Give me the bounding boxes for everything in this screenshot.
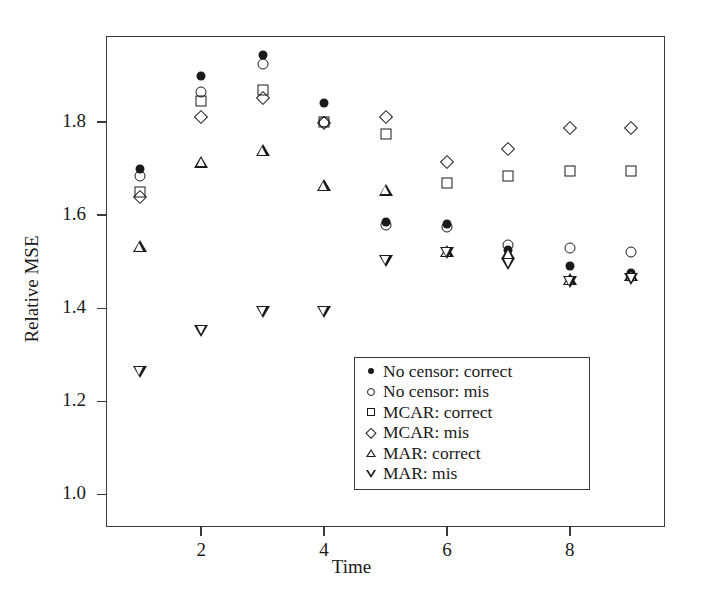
legend-item-label: MCAR: mis (383, 422, 469, 443)
data-point (194, 325, 208, 337)
legend-item: MAR: correct (361, 443, 583, 464)
data-point (626, 165, 637, 176)
y-axis-tick-label: 1.8 (26, 110, 86, 132)
legend-diamond-icon (361, 423, 381, 443)
data-point (626, 247, 637, 258)
data-point (379, 184, 393, 196)
legend-item: No censor: mis (361, 382, 583, 403)
y-axis-tick (97, 214, 106, 216)
data-point (257, 58, 268, 69)
x-axis-tick (569, 527, 571, 536)
x-axis-tick (200, 527, 202, 536)
y-axis-tick (97, 401, 106, 403)
data-point (134, 170, 145, 181)
data-point (565, 262, 574, 271)
open-circle-marker-icon (367, 388, 375, 396)
data-point (441, 177, 452, 188)
data-point (564, 165, 575, 176)
legend-filled-circle-icon (361, 361, 381, 381)
legend-item-label: MAR: correct (383, 443, 481, 464)
scatter-plot-figure: 1.01.21.41.61.8 2468 Relative MSE Time N… (0, 0, 703, 606)
data-point (564, 242, 575, 253)
data-point (317, 179, 331, 191)
data-point (380, 220, 391, 231)
legend-item-label: MAR: mis (383, 463, 457, 484)
x-axis-label: Time (0, 556, 703, 578)
diamond-marker-icon (366, 427, 377, 438)
data-point (379, 255, 393, 267)
legend-item: MCAR: mis (361, 423, 583, 444)
legend-item-label: No censor: mis (383, 381, 489, 402)
data-point (441, 221, 452, 232)
legend-item-label: No censor: correct (383, 361, 512, 382)
triangle-down-marker-icon (366, 470, 376, 478)
data-point (194, 156, 208, 168)
data-point (624, 273, 638, 285)
data-point (563, 276, 577, 288)
data-point (133, 366, 147, 378)
legend-item-label: MCAR: correct (383, 402, 492, 423)
legend-square-icon (361, 402, 381, 422)
data-point (256, 306, 270, 318)
x-axis-tick (446, 527, 448, 536)
y-axis-tick-label: 1.2 (26, 389, 86, 411)
x-axis-tick (323, 527, 325, 536)
data-point (196, 96, 207, 107)
legend: No censor: correctNo censor: misMCAR: co… (354, 357, 590, 490)
data-point (317, 306, 331, 318)
filled-circle-marker-icon (368, 368, 374, 374)
data-point (501, 258, 515, 270)
data-point (197, 71, 206, 80)
triangle-up-marker-icon (366, 449, 376, 457)
legend-item: MAR: mis (361, 464, 583, 485)
data-point (440, 247, 454, 259)
data-point (380, 128, 391, 139)
legend-open-circle-icon (361, 382, 381, 402)
y-axis-tick-label: 1.0 (26, 482, 86, 504)
legend-item: No censor: correct (361, 361, 583, 382)
data-point (133, 240, 147, 252)
square-marker-icon (367, 408, 375, 416)
y-axis-tick (97, 121, 106, 123)
legend-triangle-down-icon (361, 464, 381, 484)
data-point (503, 170, 514, 181)
y-axis-label: Relative MSE (21, 209, 43, 369)
legend-item: MCAR: correct (361, 402, 583, 423)
data-point (256, 144, 270, 156)
y-axis-tick (97, 308, 106, 310)
y-axis-tick (97, 494, 106, 496)
data-point (320, 99, 329, 108)
legend-triangle-up-icon (361, 443, 381, 463)
